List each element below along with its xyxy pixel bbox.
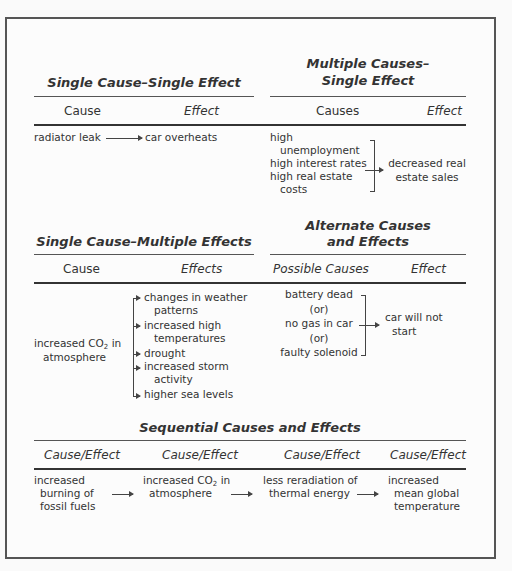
effect-item-cont: temperatures xyxy=(144,332,247,347)
divider xyxy=(34,440,466,441)
effect-text: car overheats xyxy=(145,131,217,144)
step-1: increased burning of fossil fuels xyxy=(34,474,95,513)
effect-line1: decreased real xyxy=(386,157,468,170)
step-text: in xyxy=(217,474,230,486)
effect-item: higher sea levels xyxy=(144,388,247,401)
arrow-icon xyxy=(133,354,140,355)
header-step-3: Cause/Effect xyxy=(284,448,360,463)
arrow-icon xyxy=(231,494,252,495)
panel-title-line1: Multiple Causes– xyxy=(270,55,466,72)
header-effects: Effects xyxy=(181,262,222,277)
header-effect: Effect xyxy=(184,104,219,119)
cause-item-cont: costs xyxy=(270,183,367,196)
panel-title: Single Cause–Multiple Effects xyxy=(32,233,256,250)
divider-thick xyxy=(34,124,256,126)
bracket-icon xyxy=(370,140,375,192)
panel-title: Sequential Causes and Effects xyxy=(34,419,466,436)
arrow-icon xyxy=(133,298,140,299)
or-label: (or) xyxy=(278,303,360,318)
header-effect: Effect xyxy=(411,262,446,277)
cause-item-cont: unemployment xyxy=(270,144,367,157)
arrow-icon xyxy=(133,368,140,369)
effect-item: changes in weather xyxy=(144,291,247,304)
header-cause: Cause xyxy=(63,262,100,277)
step-3: less reradiation of thermal energy xyxy=(263,474,358,500)
cause-item: high interest rates xyxy=(270,157,367,170)
step-4: increased mean global temperature xyxy=(388,474,460,513)
step-text: thermal energy xyxy=(263,487,358,500)
cause-text: in xyxy=(108,337,121,349)
panel-title-line2: Single Effect xyxy=(270,72,466,89)
divider-thick xyxy=(34,468,466,470)
effect-item: drought xyxy=(144,347,247,360)
step-text: increased xyxy=(34,474,95,487)
header-effect: Effect xyxy=(427,104,462,119)
cause-item: high real estate xyxy=(270,170,367,183)
step-text: increased CO xyxy=(143,474,213,486)
panel-title-line1: Alternate Causes xyxy=(270,217,466,234)
panel-title: Single Cause–Single Effect xyxy=(34,74,254,91)
effect-line2: start xyxy=(392,325,416,338)
or-label: (or) xyxy=(278,332,360,347)
divider-thick xyxy=(254,282,466,284)
arrow-icon xyxy=(365,170,383,171)
divider-thick xyxy=(34,282,256,284)
step-text: fossil fuels xyxy=(34,500,95,513)
header-step-2: Cause/Effect xyxy=(162,448,238,463)
step-text: temperature xyxy=(388,500,460,513)
step-text: atmosphere xyxy=(143,487,230,500)
cause-line1: increased CO2 in xyxy=(34,337,121,350)
cause-item: no gas in car xyxy=(278,317,360,332)
divider-thick xyxy=(254,124,466,126)
header-step-1: Cause/Effect xyxy=(44,448,120,463)
divider xyxy=(34,96,254,97)
arrow-icon xyxy=(112,494,133,495)
divider xyxy=(270,254,466,255)
divider xyxy=(270,96,466,97)
step-2: increased CO2 in atmosphere xyxy=(143,474,230,500)
step-text: mean global xyxy=(388,487,460,500)
effect-line2: estate sales xyxy=(386,171,468,184)
cause-text: increased CO xyxy=(34,337,104,349)
panel-title-line2: and Effects xyxy=(270,233,466,250)
cause-item: high xyxy=(270,131,367,144)
cause-text: radiator leak xyxy=(34,131,101,144)
arrow-icon xyxy=(133,326,140,327)
effect-line1: car will not xyxy=(385,311,443,324)
effect-item: increased storm xyxy=(144,360,247,373)
header-possible-causes: Possible Causes xyxy=(273,262,369,277)
branch-line xyxy=(133,298,134,397)
causes-list: high unemployment high interest rates hi… xyxy=(270,131,367,196)
cause-line2: atmosphere xyxy=(43,351,106,364)
effect-item-cont: patterns xyxy=(144,304,247,319)
arrow-icon xyxy=(359,325,379,326)
step-text: less reradiation of xyxy=(263,474,358,487)
causes-list: battery dead (or) no gas in car (or) fau… xyxy=(278,288,360,361)
header-cause: Cause xyxy=(64,104,101,119)
effects-list: changes in weather patterns increased hi… xyxy=(144,291,247,401)
step-text: increased CO2 in xyxy=(143,474,230,487)
effect-item-cont: activity xyxy=(144,373,247,388)
step-text: burning of xyxy=(34,487,95,500)
arrow-icon xyxy=(133,396,140,397)
divider xyxy=(34,254,254,255)
cause-item: faulty solenoid xyxy=(278,346,360,361)
step-text: increased xyxy=(388,474,460,487)
arrow-icon xyxy=(106,138,142,139)
cause-item: battery dead xyxy=(278,288,360,303)
header-step-4: Cause/Effect xyxy=(390,448,466,463)
header-causes: Causes xyxy=(316,104,359,119)
arrow-icon xyxy=(357,494,378,495)
effect-item: increased high xyxy=(144,319,247,332)
